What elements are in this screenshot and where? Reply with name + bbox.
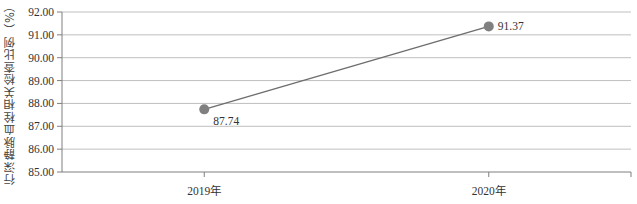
data-label: 87.74: [213, 115, 239, 127]
y-tick-label: 86.00: [28, 143, 54, 155]
y-tick-label: 90.00: [28, 52, 54, 64]
y-tick-label: 87.00: [28, 120, 54, 132]
x-tick-label: 2020年: [472, 184, 506, 197]
x-axis-ticks: 2019年2020年: [187, 172, 631, 197]
data-point-marker: [199, 104, 209, 114]
line-chart: 85.0086.0087.0088.0089.0090.0091.0092.00…: [0, 0, 637, 204]
y-tick-label: 88.00: [28, 97, 54, 109]
y-tick-label: 92.00: [28, 6, 54, 18]
y-tick-label: 85.00: [28, 166, 54, 178]
y-tick-label: 89.00: [28, 75, 54, 87]
series-line: [204, 26, 489, 109]
gridlines: [62, 12, 631, 149]
data-point-marker: [484, 21, 494, 31]
y-axis-ticks: 85.0086.0087.0088.0089.0090.0091.0092.00: [28, 6, 62, 178]
x-tick-label: 2019年: [187, 184, 221, 197]
data-series: 87.7491.37: [199, 20, 524, 127]
y-tick-label: 91.00: [28, 29, 54, 41]
data-label: 91.37: [498, 20, 524, 32]
axes: [62, 12, 631, 172]
